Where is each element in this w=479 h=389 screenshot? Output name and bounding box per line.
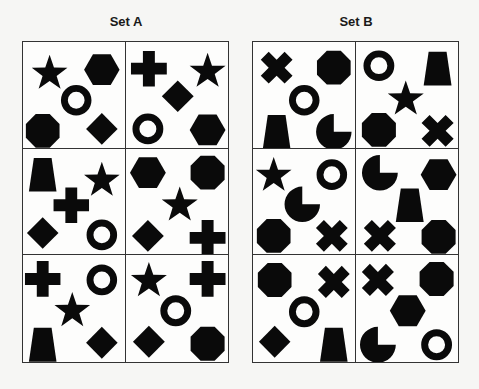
- cell-figure: [253, 255, 355, 362]
- diamond-shape: [27, 217, 59, 249]
- set-b-cell: [356, 42, 459, 149]
- set-b-cell: [253, 42, 356, 149]
- cross-shape: [25, 261, 60, 297]
- octagon-shape: [190, 327, 224, 361]
- ring-shape: [90, 268, 114, 292]
- cell-figure: [126, 42, 229, 148]
- ring-shape: [90, 223, 114, 247]
- diamond-shape: [132, 326, 164, 358]
- hexagon-shape: [84, 54, 119, 85]
- star-shape: [161, 186, 197, 220]
- set-a-title: Set A: [22, 14, 230, 29]
- cross-shape: [189, 261, 225, 297]
- x-cross-shape: [310, 258, 355, 306]
- set-b-cell: [356, 149, 459, 256]
- octagon-shape: [361, 113, 395, 147]
- set-a-grid: [22, 41, 229, 363]
- set-b-cell: [253, 255, 356, 362]
- cell-figure: [23, 255, 125, 362]
- trapezoid-shape: [263, 115, 291, 148]
- cell-figure: [356, 42, 459, 148]
- star-shape: [387, 81, 423, 115]
- diamond-shape: [86, 113, 118, 145]
- x-cross-shape: [308, 212, 354, 255]
- star-shape: [189, 53, 225, 87]
- pacman-shape: [285, 186, 320, 222]
- set-b-cell: [253, 149, 356, 256]
- octagon-shape: [317, 51, 351, 85]
- octagon-shape: [26, 114, 60, 148]
- pacman-shape: [361, 155, 397, 191]
- octagon-shape: [419, 262, 453, 296]
- octagon-shape: [190, 155, 224, 189]
- set-b-title: Set B: [252, 14, 460, 29]
- cross-shape: [130, 51, 166, 87]
- star-shape: [130, 262, 166, 296]
- hexagon-shape: [129, 157, 165, 188]
- cell-figure: [253, 42, 355, 148]
- hexagon-shape: [420, 159, 456, 190]
- set-b-grid: [252, 41, 459, 363]
- trapezoid-shape: [320, 328, 348, 362]
- hexagon-shape: [389, 296, 425, 327]
- set-a-cell: [23, 149, 126, 256]
- ring-shape: [424, 333, 448, 357]
- ring-shape: [292, 300, 316, 324]
- pacman-shape: [316, 114, 351, 148]
- cell-figure: [126, 255, 229, 362]
- cell-figure: [126, 149, 229, 255]
- ring-shape: [163, 299, 187, 323]
- octagon-shape: [421, 220, 455, 254]
- cell-figure: [23, 149, 125, 255]
- ring-shape: [320, 162, 344, 186]
- octagon-shape: [258, 263, 292, 297]
- ring-shape: [64, 88, 88, 112]
- ring-shape: [292, 88, 316, 112]
- pacman-shape: [359, 327, 395, 362]
- star-shape: [54, 292, 90, 326]
- star-shape: [84, 161, 120, 195]
- x-cross-shape: [253, 44, 300, 92]
- set-b-cell: [356, 255, 459, 362]
- trapezoid-shape: [29, 158, 57, 192]
- hexagon-shape: [189, 114, 225, 145]
- ring-shape: [135, 117, 159, 141]
- x-cross-shape: [356, 256, 402, 304]
- star-shape: [32, 55, 68, 89]
- cross-shape: [54, 187, 89, 223]
- octagon-shape: [257, 219, 291, 253]
- cell-figure: [23, 42, 125, 148]
- diamond-shape: [259, 326, 291, 358]
- cross-shape: [189, 220, 225, 255]
- x-cross-shape: [413, 107, 458, 148]
- trapezoid-shape: [29, 328, 57, 362]
- diamond-shape: [131, 220, 163, 252]
- set-a-cell: [23, 42, 126, 149]
- cell-figure: [356, 255, 459, 362]
- ring-shape: [366, 54, 390, 78]
- trapezoid-shape: [423, 52, 451, 86]
- trapezoid-shape: [395, 188, 423, 222]
- set-a-cell: [23, 255, 126, 362]
- diamond-shape: [161, 81, 193, 113]
- diamond-shape: [86, 327, 118, 359]
- cell-figure: [356, 149, 459, 255]
- set-a-cell: [126, 42, 229, 149]
- set-a-cell: [126, 149, 229, 256]
- star-shape: [256, 157, 292, 191]
- set-a-cell: [126, 255, 229, 362]
- cell-figure: [253, 149, 355, 255]
